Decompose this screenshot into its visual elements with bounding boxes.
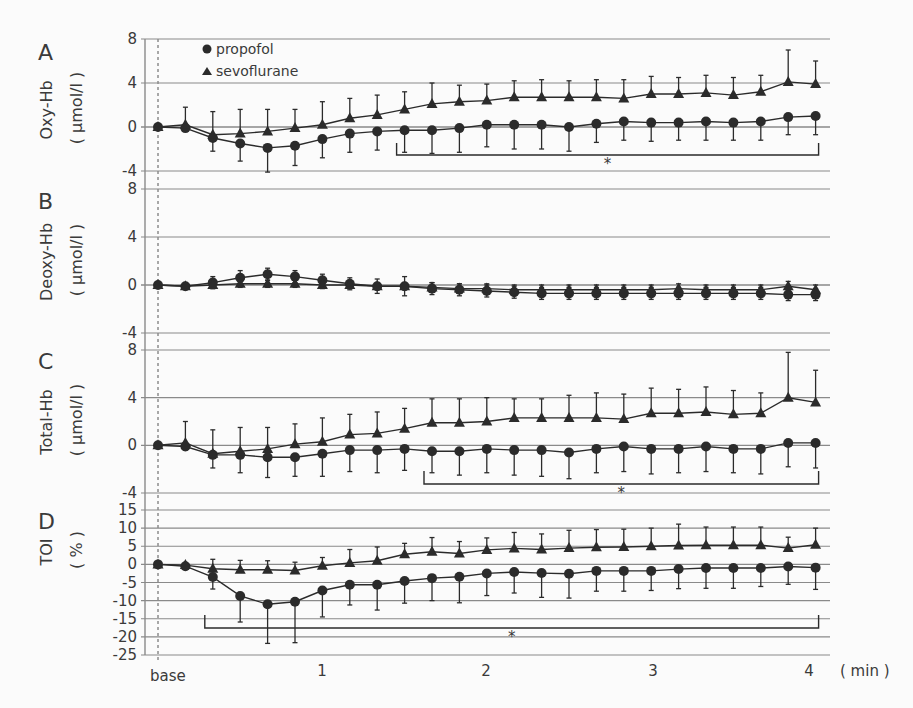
triangle-marker-icon: [454, 417, 465, 427]
triangle-marker-icon: [536, 91, 547, 101]
circle-marker-icon: [372, 445, 382, 455]
series-sevoflurane: [153, 278, 822, 295]
triangle-marker-icon: [591, 412, 602, 422]
y-tick-label: -5: [122, 574, 137, 592]
triangle-marker-icon: [673, 540, 684, 550]
significance-bracket: [205, 615, 819, 628]
circle-marker-icon: [400, 125, 410, 135]
y-tick-label: -25: [113, 646, 138, 664]
circle-marker-icon: [591, 566, 601, 576]
circle-marker-icon: [811, 563, 821, 573]
legend-propofol: propofol: [216, 41, 274, 57]
circle-marker-icon: [591, 119, 601, 129]
significance-asterisk: *: [618, 484, 626, 502]
circle-marker-icon: [454, 572, 464, 582]
circle-marker-icon: [400, 444, 410, 454]
triangle-marker-icon: [509, 412, 520, 422]
circle-marker-icon: [646, 444, 656, 454]
circle-marker-icon: [701, 563, 711, 573]
triangle-marker-icon: [481, 283, 492, 293]
y-axis-unit: ( µmol/l ): [67, 72, 86, 145]
triangle-marker-icon: [509, 91, 520, 101]
circle-marker-icon: [290, 597, 300, 607]
circle-marker-icon: [701, 442, 711, 452]
triangle-marker-icon: [536, 412, 547, 422]
circle-marker-icon: [646, 566, 656, 576]
circle-marker-icon: [509, 567, 519, 577]
axis-labels: 840-4AOxy-Hb( µmol/l )840-4BDeoxy-Hb( µm…: [37, 30, 137, 664]
circle-marker-icon: [372, 580, 382, 590]
circle-marker-icon: [756, 563, 766, 573]
series-propofol: [153, 438, 821, 479]
y-tick-label: 8: [127, 341, 137, 359]
y-axis-label: Deoxy-Hb: [37, 223, 56, 301]
circle-marker-icon: [701, 117, 711, 127]
circle-marker-icon: [400, 576, 410, 586]
gridlines: [141, 39, 830, 660]
circle-marker-icon: [591, 444, 601, 454]
circle-marker-icon: [482, 568, 492, 578]
circle-marker-icon: [811, 111, 821, 121]
triangle-marker-icon: [262, 278, 273, 288]
y-tick-label: 5: [127, 537, 137, 555]
circle-marker-icon: [537, 445, 547, 455]
circle-marker-icon: [783, 112, 793, 122]
circle-marker-icon: [454, 446, 464, 456]
circle-marker-icon: [290, 452, 300, 462]
triangle-marker-icon: [481, 544, 492, 554]
triangle-marker-icon: [180, 119, 191, 129]
triangle-marker-icon: [262, 564, 273, 574]
x-tick-1: 1: [317, 662, 327, 680]
series-sevoflurane: [153, 524, 822, 574]
legend: propofol sevoflurane: [202, 41, 298, 79]
significance-bracket: [424, 471, 819, 484]
data-series: ***: [153, 50, 822, 646]
triangle-marker-icon: [701, 87, 712, 97]
circle-marker-icon: [345, 580, 355, 590]
x-tick-3: 3: [648, 662, 658, 680]
triangle-marker-icon: [701, 539, 712, 549]
legend-circle-icon: [203, 45, 212, 54]
legend-triangle-icon: [202, 67, 212, 75]
y-tick-label: 0: [127, 118, 137, 136]
triangle-marker-icon: [646, 88, 657, 98]
circle-marker-icon: [564, 569, 574, 579]
circle-marker-icon: [619, 442, 629, 452]
triangle-marker-icon: [673, 407, 684, 417]
circle-marker-icon: [537, 568, 547, 578]
triangle-marker-icon: [728, 408, 739, 418]
circle-marker-icon: [317, 585, 327, 595]
panel-letter: B: [38, 189, 53, 214]
circle-marker-icon: [728, 444, 738, 454]
circle-marker-icon: [427, 573, 437, 583]
y-axis-label: Oxy-Hb: [37, 80, 56, 139]
y-axis-label: Total-Hb: [37, 389, 56, 455]
y-tick-label: -15: [113, 610, 138, 628]
triangle-marker-icon: [509, 542, 520, 552]
triangle-marker-icon: [427, 417, 438, 427]
y-tick-label: 8: [127, 180, 137, 198]
circle-marker-icon: [509, 120, 519, 130]
circle-marker-icon: [427, 125, 437, 135]
triangle-marker-icon: [646, 540, 657, 550]
circle-marker-icon: [756, 117, 766, 127]
triangle-marker-icon: [454, 96, 465, 106]
series-sevoflurane: [153, 352, 822, 457]
panel-letter: D: [38, 509, 55, 534]
circle-marker-icon: [619, 566, 629, 576]
circle-marker-icon: [783, 438, 793, 448]
triangle-marker-icon: [701, 406, 712, 416]
triangle-marker-icon: [427, 546, 438, 556]
circle-marker-icon: [235, 591, 245, 601]
circle-marker-icon: [345, 129, 355, 139]
y-tick-label: 4: [127, 74, 137, 92]
triangle-marker-icon: [755, 539, 766, 549]
y-axis-unit: ( µmol/l ): [67, 224, 86, 297]
series-propofol: [153, 111, 821, 172]
triangle-marker-icon: [755, 407, 766, 417]
series-propofol: [153, 559, 821, 643]
y-axis-unit: ( % ): [67, 531, 86, 569]
significance-asterisk: *: [508, 628, 516, 646]
y-tick-label: 4: [127, 389, 137, 407]
circle-marker-icon: [290, 141, 300, 151]
